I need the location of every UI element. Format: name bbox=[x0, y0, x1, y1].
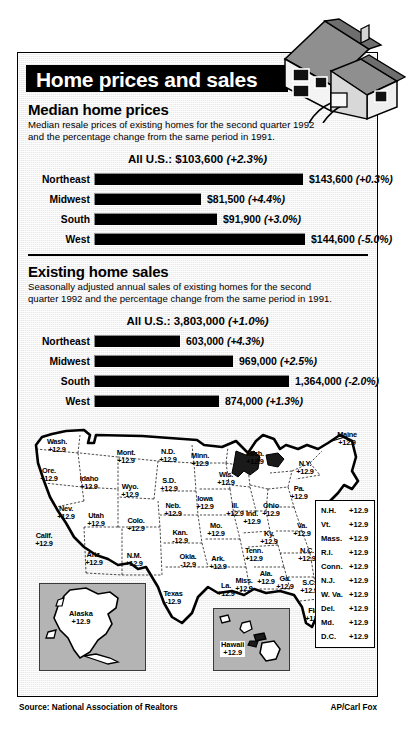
bar-row: Northeast$143,600 (+0.3%) bbox=[22, 173, 373, 186]
legend-value: +12.9 bbox=[349, 506, 368, 515]
bar-label-west: West bbox=[22, 234, 90, 245]
state-label-calif: Calif.+12.9 bbox=[28, 532, 60, 548]
legend-abbr: Md. bbox=[321, 618, 334, 627]
legend-abbr: R.I. bbox=[321, 548, 333, 557]
section-title-prices: Median home prices bbox=[28, 101, 169, 118]
legend-row: N.J.+12.9 bbox=[316, 574, 374, 588]
state-label-ky: Ky.+12.9 bbox=[253, 530, 285, 546]
section-title-sales: Existing home sales bbox=[28, 263, 168, 280]
alaska-inset: Alaska +12.9 bbox=[39, 583, 146, 671]
state-label-va: Va.+12.9 bbox=[286, 522, 318, 538]
small-states-legend: N.H.+12.9Vt.+12.9Mass.+12.9R.I.+12.9Conn… bbox=[315, 500, 375, 648]
all-us-prices-value: All U.S.: $103,600 bbox=[128, 153, 223, 165]
infographic-panel: Home prices and sales Median home prices… bbox=[17, 52, 378, 697]
state-label-ny: N.Y.+12.9 bbox=[289, 460, 321, 476]
state-label-nm: N.M.+12.9 bbox=[118, 552, 150, 568]
legend-abbr: Mass. bbox=[321, 534, 342, 543]
bar-west bbox=[94, 233, 305, 245]
state-label-neb: Neb.+12.9 bbox=[157, 502, 189, 518]
state-label-maine: Maine+12.9 bbox=[331, 431, 363, 447]
bar-value-south: 1,364,000 (-2.0%) bbox=[295, 375, 379, 387]
legend-value: +12.9 bbox=[349, 604, 368, 613]
legend-abbr: Del. bbox=[321, 604, 335, 613]
state-label-tenn: Tenn.+12.9 bbox=[238, 547, 270, 563]
us-map: Wash.+12.9Ore.+12.9Calif.+12.9Idaho+12.9… bbox=[22, 427, 375, 682]
bar-south bbox=[94, 213, 217, 225]
state-label-utah: Utah+12.9 bbox=[80, 512, 112, 528]
bar-midwest bbox=[94, 193, 201, 205]
legend-row: Del.+12.9 bbox=[316, 602, 374, 616]
hawaii-outline bbox=[214, 609, 287, 668]
alaska-value: +12.9 bbox=[72, 617, 91, 626]
bar-label-south: South bbox=[22, 214, 90, 225]
all-us-prices-change: (+2.3%) bbox=[226, 153, 267, 165]
state-label-ark: Ark.+12.9 bbox=[202, 555, 234, 571]
legend-abbr: W. Va. bbox=[321, 590, 343, 599]
section-divider bbox=[28, 254, 368, 256]
hawaii-inset: Hawaii +12.9 bbox=[213, 608, 290, 671]
bar-row: Northeast603,000 (+4.3%) bbox=[22, 335, 373, 348]
legend-abbr: Vt. bbox=[321, 520, 331, 529]
state-label-texas: Texas-12.9 bbox=[157, 590, 189, 606]
state-label-nev: Nev.+12.9 bbox=[50, 505, 82, 521]
bar-row: South$91,900 (+3.0%) bbox=[22, 213, 373, 226]
all-us-sales: All U.S.: 3,803,000 (+1.0%) bbox=[22, 315, 373, 327]
legend-abbr: Conn. bbox=[321, 562, 343, 571]
state-label-iowa: Iowa+12.9 bbox=[189, 495, 221, 511]
bar-value-west: 874,000 (+1.3%) bbox=[225, 395, 303, 407]
state-label-wis: Wis.+12.9 bbox=[210, 471, 242, 487]
state-label-sd: S.D.+12.9 bbox=[153, 477, 185, 493]
bar-west bbox=[94, 395, 219, 407]
state-label-ariz: Ariz.+12.9 bbox=[78, 551, 110, 567]
credit-note: AP/Carl Fox bbox=[331, 703, 377, 712]
bar-row: Midwest$81,500 (+4.4%) bbox=[22, 193, 373, 206]
bar-value-south: $91,900 (+3.0%) bbox=[223, 213, 301, 225]
legend-abbr: N.H. bbox=[321, 506, 336, 515]
state-label-colo: Colo.+12.9 bbox=[120, 517, 152, 533]
state-label-idaho: Idaho+12.9 bbox=[73, 475, 105, 491]
legend-value: +12.9 bbox=[349, 618, 368, 627]
page-title: Home prices and sales bbox=[36, 68, 257, 92]
legend-row: Mass.+12.9 bbox=[316, 532, 374, 546]
alaska-label: Alaska +12.9 bbox=[68, 610, 94, 626]
state-label-wyo: Wyo.+12.9 bbox=[114, 483, 146, 499]
legend-value: +12.9 bbox=[349, 576, 368, 585]
source-note: Source: National Association of Realtors bbox=[19, 703, 177, 712]
legend-abbr: D.C. bbox=[321, 632, 336, 641]
bar-value-west: $144,600 (-5.0%) bbox=[311, 233, 392, 245]
bar-value-midwest: 969,000 (+2.5%) bbox=[239, 355, 317, 367]
state-label-pa: Pa.+12.9 bbox=[283, 485, 315, 501]
section-desc-sales: Seasonally adjusted annual sales of exis… bbox=[28, 281, 333, 306]
bar-northeast bbox=[94, 335, 180, 347]
bar-value-northeast: 603,000 (+4.3%) bbox=[186, 335, 264, 347]
state-label-nd: N.D.+12.9 bbox=[152, 448, 184, 464]
state-label-mont: Mont.+12.9 bbox=[110, 449, 142, 465]
legend-value: +12.9 bbox=[349, 632, 368, 641]
legend-abbr: N.J. bbox=[321, 576, 335, 585]
bar-row: West$144,600 (-5.0%) bbox=[22, 233, 373, 246]
state-label-okla: Okla.-12.9 bbox=[172, 553, 204, 569]
state-label-mo: Mo.+12.9 bbox=[200, 522, 232, 538]
bar-label-northeast: Northeast bbox=[22, 174, 90, 185]
bar-value-northeast: $143,600 (+0.3%) bbox=[309, 173, 393, 185]
legend-row: N.H.+12.9 bbox=[316, 504, 374, 518]
legend-value: +12.9 bbox=[349, 590, 368, 599]
state-label-ore: Ore.+12.9 bbox=[33, 467, 65, 483]
legend-value: +12.9 bbox=[349, 520, 368, 529]
legend-row: Md.+12.9 bbox=[316, 616, 374, 630]
bar-row: West874,000 (+1.3%) bbox=[22, 395, 373, 408]
legend-value: +12.9 bbox=[349, 548, 368, 557]
bar-midwest bbox=[94, 355, 233, 367]
legend-row: Vt.+12.9 bbox=[316, 518, 374, 532]
state-label-ohio: Ohio+12.9 bbox=[255, 502, 287, 518]
all-us-prices: All U.S.: $103,600 (+2.3%) bbox=[22, 153, 373, 165]
state-label-wash: Wash.+12.9 bbox=[41, 438, 73, 454]
all-us-sales-value: All U.S.: 3,803,000 bbox=[126, 315, 224, 327]
legend-value: +12.9 bbox=[349, 562, 368, 571]
title-banner: Home prices and sales bbox=[26, 65, 288, 92]
bar-label-midwest: Midwest bbox=[22, 356, 90, 367]
legend-value: +12.9 bbox=[349, 534, 368, 543]
hawaii-value: +12.9 bbox=[223, 648, 242, 657]
bar-label-west: West bbox=[22, 396, 90, 407]
bar-northeast bbox=[94, 173, 303, 185]
